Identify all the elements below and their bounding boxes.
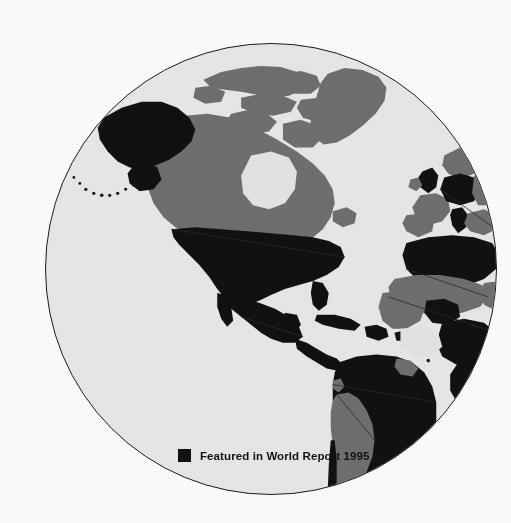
world-map-svg [46, 44, 496, 494]
globe-disc [45, 43, 497, 495]
region-south-america [328, 355, 437, 494]
map-legend: Featured in World Report 1995 [178, 449, 369, 462]
region-europe [402, 148, 496, 238]
legend-featured-swatch-icon [178, 449, 191, 462]
legend-featured-label: Featured in World Report 1995 [200, 450, 369, 462]
figure-page: W D E R T 9 5 [0, 0, 511, 523]
globe-figure [45, 43, 497, 495]
